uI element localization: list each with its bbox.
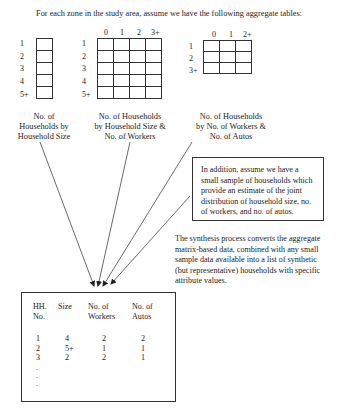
cell: 2 [65, 353, 69, 363]
cell: 4 [65, 334, 69, 344]
ellipsis-dot: . [36, 379, 166, 387]
table-rows: 1 4 2 2 2 5+ 1 1 3 2 2 1 . . . [36, 334, 166, 387]
cell: 1 [102, 344, 106, 354]
header-line: Workers [88, 312, 138, 322]
synthetic-households-table: HH. No. Size No. of Workers No. of Autos… [21, 292, 176, 402]
cell: 2 [141, 334, 145, 344]
cell: 5+ [65, 344, 74, 354]
header-line: Autos [132, 312, 172, 322]
header-line: No. of [88, 302, 138, 312]
header-line: No. [33, 312, 93, 322]
arrow-line [103, 142, 192, 286]
header-size: Size [58, 302, 88, 312]
table-row: 1 4 2 2 [36, 334, 166, 344]
arrow-line [98, 142, 130, 286]
table-row: 3 2 2 1 [36, 353, 166, 363]
cell: 1 [141, 344, 145, 354]
ellipsis-dot: . [36, 371, 166, 379]
arrow-line [40, 142, 94, 286]
header-autos: No. of Autos [132, 302, 172, 322]
cell: 2 [36, 344, 40, 354]
cell: 2 [102, 353, 106, 363]
cell: 3 [36, 353, 40, 363]
header-line: Size [58, 302, 88, 312]
cell: 2 [102, 334, 106, 344]
cell: 1 [36, 334, 40, 344]
table-row: 2 5+ 1 1 [36, 344, 166, 354]
header-workers: No. of Workers [88, 302, 138, 322]
ellipsis-dot: . [36, 363, 166, 371]
cell: 1 [141, 353, 145, 363]
header-line: No. of [132, 302, 172, 312]
